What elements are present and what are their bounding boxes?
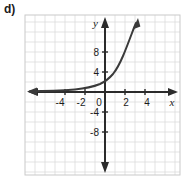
- x-axis-label: x: [169, 96, 175, 108]
- x-tick-label-neg2: -2: [77, 97, 86, 108]
- y-tick-label-neg4: -4: [90, 107, 99, 118]
- y-axis-label: y: [92, 17, 98, 29]
- x-tick-label-neg4: -4: [56, 97, 65, 108]
- y-tick-label-4: 4: [93, 67, 99, 78]
- y-tick-label-8: 8: [93, 47, 99, 58]
- plot-background: [25, 15, 180, 175]
- x-tick-label-2: 2: [123, 97, 129, 108]
- coordinate-plane: -4 -2 0 2 4 8 4 -4 -8 y x: [0, 0, 191, 186]
- x-tick-label-4: 4: [144, 97, 150, 108]
- y-tick-label-neg8: -8: [90, 127, 99, 138]
- figure-container: d): [0, 0, 191, 186]
